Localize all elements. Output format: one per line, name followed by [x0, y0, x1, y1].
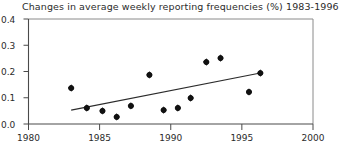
data-point-core [114, 114, 119, 119]
plot-frame [29, 19, 314, 124]
x-axis: 1980 1985 1990 1995 2000 [17, 124, 325, 143]
data-point-core [175, 105, 180, 110]
data-point-core [246, 89, 251, 94]
data-point-core [147, 72, 152, 77]
x-tick-label-1980: 1980 [17, 133, 40, 143]
data-point-group [69, 55, 263, 120]
x-tick-label-1985: 1985 [88, 133, 111, 143]
y-tick-label-0.1: 0.1 [1, 93, 15, 103]
trend-line [71, 73, 260, 110]
data-point-core [69, 85, 74, 90]
x-tick-label-2000: 2000 [302, 133, 325, 143]
x-tick-label-1995: 1995 [230, 133, 253, 143]
data-point-core [258, 70, 263, 75]
y-tick-label-0.2: 0.2 [1, 67, 15, 77]
data-point-core [128, 103, 133, 108]
data-point-core [100, 108, 105, 113]
data-point-core [84, 105, 89, 110]
data-point-core [161, 107, 166, 112]
data-point-core [218, 55, 223, 60]
y-tick-label-0.4: 0.4 [1, 15, 16, 25]
y-axis: 0.4 0.3 0.2 0.1 0.0 [1, 15, 29, 130]
data-point-core [188, 95, 193, 100]
x-tick-label-1990: 1990 [159, 133, 182, 143]
y-tick-label-0.3: 0.3 [1, 41, 15, 51]
y-tick-label-0.0: 0.0 [1, 120, 16, 130]
data-point-core [204, 59, 209, 64]
